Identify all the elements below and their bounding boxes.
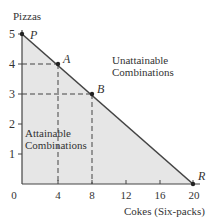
unattainable-label-line1: Unattainable bbox=[112, 54, 168, 66]
svg-text:4: 4 bbox=[9, 57, 15, 71]
point-label-p: P bbox=[29, 28, 38, 42]
point-label-b: B bbox=[97, 82, 105, 96]
svg-text:4: 4 bbox=[55, 189, 61, 201]
svg-text:2: 2 bbox=[9, 117, 15, 131]
svg-text:3: 3 bbox=[9, 87, 15, 101]
x-tick-labels: 0 4 8 12 16 20 bbox=[11, 189, 200, 201]
unattainable-label-line2: Combinations bbox=[112, 66, 174, 78]
svg-text:12: 12 bbox=[121, 189, 132, 201]
attainable-label-line2: Combinations bbox=[25, 139, 87, 151]
svg-text:5: 5 bbox=[9, 27, 15, 41]
svg-text:20: 20 bbox=[189, 189, 201, 201]
point-label-a: A bbox=[62, 52, 71, 66]
budget-constraint-chart: P A B R Pizzas 5 4 3 2 1 0 4 8 12 16 20 … bbox=[0, 0, 219, 224]
svg-text:8: 8 bbox=[89, 189, 95, 201]
y-axis-label: Pizzas bbox=[13, 10, 41, 22]
svg-text:1: 1 bbox=[9, 147, 15, 161]
y-tick-labels: 5 4 3 2 1 bbox=[9, 27, 15, 161]
point-label-r: R bbox=[197, 169, 206, 183]
x-axis-label: Cokes (Six-packs) bbox=[124, 205, 205, 218]
svg-text:0: 0 bbox=[11, 189, 17, 201]
svg-text:16: 16 bbox=[155, 189, 167, 201]
attainable-label-line1: Attainable bbox=[25, 127, 71, 139]
